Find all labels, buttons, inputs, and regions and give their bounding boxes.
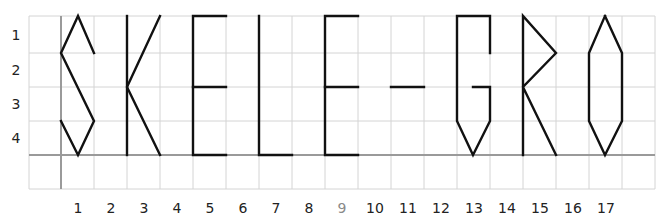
letter-stroke (589, 16, 622, 155)
letter-k (127, 16, 160, 155)
letter-grid-diagram: 1234 1234567891011121314151617 (0, 0, 663, 223)
letter-stroke (61, 16, 94, 155)
column-label: 10 (366, 200, 384, 216)
letter-strokes (61, 16, 622, 155)
grid (29, 16, 655, 189)
column-label: 1 (74, 200, 83, 216)
letter-e (193, 16, 226, 155)
column-label: 9 (338, 200, 347, 216)
column-label: 4 (173, 200, 182, 216)
axes (29, 16, 655, 189)
column-label: 7 (272, 200, 281, 216)
letter-stroke (325, 16, 358, 155)
letter-r (523, 16, 556, 155)
column-label: 13 (465, 200, 483, 216)
letter-stroke (193, 16, 226, 155)
row-label: 2 (12, 62, 21, 78)
column-label: 16 (564, 200, 582, 216)
column-label: 3 (140, 200, 149, 216)
column-label: 8 (305, 200, 314, 216)
column-label: 6 (239, 200, 248, 216)
row-label: 3 (12, 96, 21, 112)
letter-s (61, 16, 94, 155)
column-label: 15 (531, 200, 549, 216)
column-label: 14 (498, 200, 516, 216)
row-label: 4 (12, 130, 21, 146)
column-label: 17 (597, 200, 615, 216)
letter-stroke (523, 16, 556, 155)
row-labels: 1234 (12, 27, 21, 146)
letter-stroke (127, 16, 160, 155)
column-label: 12 (432, 200, 450, 216)
column-labels: 1234567891011121314151617 (74, 200, 615, 216)
column-label: 11 (399, 200, 417, 216)
row-label: 1 (12, 27, 21, 43)
column-label: 2 (107, 200, 116, 216)
letter-stroke (259, 16, 292, 155)
letter-l (259, 16, 292, 155)
letter-e (325, 16, 358, 155)
letter-o (589, 16, 622, 155)
letter-g (457, 16, 490, 155)
column-label: 5 (206, 200, 215, 216)
letter-stroke (457, 16, 490, 155)
